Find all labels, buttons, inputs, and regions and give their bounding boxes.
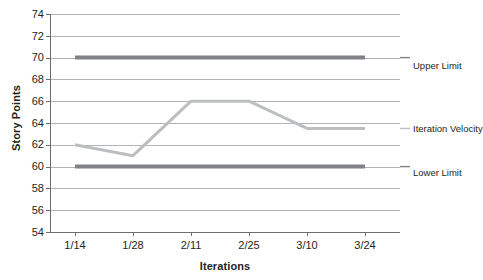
y-tick-70: 70	[18, 52, 44, 63]
y-tick-66: 66	[18, 96, 44, 107]
legend-label-lower-limit: Lower Limit	[413, 168, 462, 178]
data-series	[75, 58, 365, 167]
y-tick-54: 54	[18, 227, 44, 238]
x-tick-2-11: 2/11	[161, 239, 221, 251]
gridlines	[50, 15, 400, 233]
x-tick-2-25: 2/25	[219, 239, 279, 251]
legend-label-iteration-velocity: Iteration Velocity	[413, 124, 483, 134]
x-tick-1-28: 1/28	[103, 239, 163, 251]
legend-label-upper-limit: Upper Limit	[413, 61, 462, 71]
y-tick-60: 60	[18, 161, 44, 172]
x-tick-3-24: 3/24	[335, 239, 395, 251]
y-tick-74: 74	[18, 9, 44, 20]
y-tick-56: 56	[18, 205, 44, 216]
y-tick-68: 68	[18, 74, 44, 85]
y-tick-72: 72	[18, 31, 44, 42]
y-tick-62: 62	[18, 139, 44, 150]
legend-leader-lines	[400, 58, 410, 167]
x-tick-1-14: 1/14	[45, 239, 105, 251]
y-tick-64: 64	[18, 118, 44, 129]
x-tick-3-10: 3/10	[277, 239, 337, 251]
x-axis-title: Iterations	[50, 260, 400, 272]
y-axis-tick-labels: 74 72 70 68 66 64 62 60 58 56 54	[14, 0, 44, 280]
y-tick-58: 58	[18, 183, 44, 194]
